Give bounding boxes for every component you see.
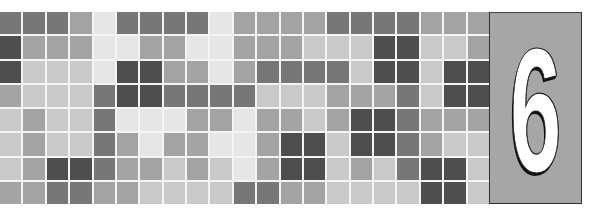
mosaic-tile [47, 36, 68, 58]
mosaic-tile [187, 61, 208, 83]
mosaic-tile [94, 36, 115, 58]
mosaic-tile [327, 12, 348, 34]
mosaic-tile [444, 158, 465, 180]
mosaic-tile [117, 158, 138, 180]
mosaic-tile [351, 85, 372, 107]
mosaic-tile [140, 158, 161, 180]
mosaic-tile [0, 133, 21, 155]
mosaic-tile [397, 12, 418, 34]
mosaic-tile [47, 133, 68, 155]
mosaic-tile [327, 85, 348, 107]
mosaic-tile [164, 109, 185, 131]
mosaic-tile [397, 61, 418, 83]
mosaic-tile [47, 61, 68, 83]
mosaic-tile [70, 12, 91, 34]
mosaic-tile [374, 61, 395, 83]
mosaic-tile [351, 109, 372, 131]
mosaic-tile [0, 12, 21, 34]
mosaic-tile [0, 36, 21, 58]
mosaic-tile [257, 61, 278, 83]
mosaic-tile [140, 133, 161, 155]
mosaic-tile [444, 85, 465, 107]
mosaic-tile [351, 158, 372, 180]
mosaic-tile [70, 182, 91, 204]
mosaic-tile [117, 109, 138, 131]
mosaic-tile [164, 12, 185, 34]
mosaic-tile [164, 85, 185, 107]
mosaic-tile [327, 182, 348, 204]
mosaic-tile [327, 158, 348, 180]
mosaic-tile [47, 85, 68, 107]
mosaic-tile [234, 36, 255, 58]
mosaic-tile [327, 109, 348, 131]
mosaic-tile [234, 158, 255, 180]
mosaic-tile [234, 182, 255, 204]
mosaic-tile [187, 133, 208, 155]
mosaic-tile [304, 36, 325, 58]
mosaic-tile [281, 36, 302, 58]
mosaic-tile [210, 85, 231, 107]
mosaic-tile [94, 61, 115, 83]
mosaic-tile [70, 85, 91, 107]
mosaic-tile [234, 133, 255, 155]
mosaic-tile [444, 109, 465, 131]
mosaic-tile [164, 133, 185, 155]
mosaic-tile [257, 85, 278, 107]
mosaic-tile [444, 12, 465, 34]
mosaic-tile [327, 61, 348, 83]
mosaic-tile [421, 158, 442, 180]
mosaic-tile [281, 85, 302, 107]
mosaic-tile [23, 109, 44, 131]
mosaic-tile [257, 109, 278, 131]
mosaic-tile [421, 182, 442, 204]
mosaic-tile [257, 12, 278, 34]
mosaic-tile [23, 12, 44, 34]
mosaic-tile [117, 36, 138, 58]
mosaic-tile [187, 182, 208, 204]
chapter-number: 6 [510, 22, 562, 199]
mosaic-tile [421, 85, 442, 107]
mosaic-tile [351, 61, 372, 83]
mosaic-tile [23, 61, 44, 83]
mosaic-tile [281, 182, 302, 204]
mosaic-tile [164, 36, 185, 58]
mosaic-tile [23, 182, 44, 204]
mosaic-tile [117, 12, 138, 34]
mosaic-tile [210, 133, 231, 155]
mosaic-tile [444, 182, 465, 204]
mosaic-tile [281, 109, 302, 131]
mosaic-tile [0, 61, 21, 83]
mosaic-tile [187, 109, 208, 131]
mosaic-tile [70, 61, 91, 83]
mosaic-tile [304, 158, 325, 180]
mosaic-tile [164, 61, 185, 83]
mosaic-tile [70, 109, 91, 131]
mosaic-tile [187, 36, 208, 58]
mosaic-tile [281, 133, 302, 155]
mosaic-tile [421, 133, 442, 155]
mosaic-tile [468, 133, 489, 155]
mosaic-tile [397, 109, 418, 131]
mosaic-tile [397, 158, 418, 180]
mosaic-tile [257, 182, 278, 204]
mosaic-tile [140, 36, 161, 58]
mosaic-tile [140, 85, 161, 107]
mosaic-tile [374, 109, 395, 131]
mosaic-tile [94, 85, 115, 107]
mosaic-tile [210, 158, 231, 180]
mosaic-tile [0, 182, 21, 204]
mosaic-tile [374, 36, 395, 58]
mosaic-tile [351, 133, 372, 155]
mosaic-tile [351, 182, 372, 204]
mosaic-tile [374, 182, 395, 204]
mosaic-tile [117, 182, 138, 204]
mosaic-tile [70, 158, 91, 180]
mosaic-tile [304, 61, 325, 83]
mosaic-tile [47, 12, 68, 34]
mosaic-tile [0, 109, 21, 131]
mosaic-tile [210, 12, 231, 34]
mosaic-tile [397, 85, 418, 107]
mosaic-tile [304, 182, 325, 204]
mosaic-tile [257, 158, 278, 180]
mosaic-tile [444, 133, 465, 155]
